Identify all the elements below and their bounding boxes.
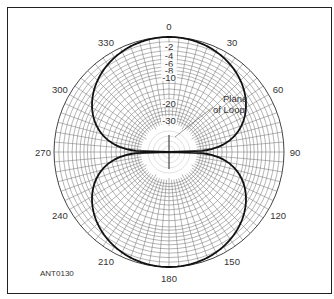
annotation-plane-line1: Plane	[223, 93, 247, 104]
angle-label-30: 30	[227, 37, 238, 48]
angle-label-180: 180	[161, 273, 177, 284]
polar-plot: 0306090120150180210240270300330-2-4-6-8-…	[0, 0, 334, 299]
angle-label-90: 90	[290, 147, 301, 158]
angle-label-240: 240	[52, 210, 68, 221]
angle-label-300: 300	[52, 84, 68, 95]
angle-label-0: 0	[166, 21, 171, 32]
angle-label-120: 120	[270, 210, 286, 221]
angle-label-330: 330	[98, 37, 114, 48]
angle-label-60: 60	[273, 84, 284, 95]
annotation-plane-line2: of Loop	[213, 104, 245, 115]
angle-label-150: 150	[224, 256, 240, 267]
radial-label--10: -10	[162, 72, 176, 83]
figure-id: ANT0130	[40, 269, 74, 278]
angle-label-270: 270	[35, 147, 51, 158]
radial-label--20: -20	[162, 98, 176, 109]
angle-label-210: 210	[98, 256, 114, 267]
radial-label--30: -30	[162, 115, 176, 126]
